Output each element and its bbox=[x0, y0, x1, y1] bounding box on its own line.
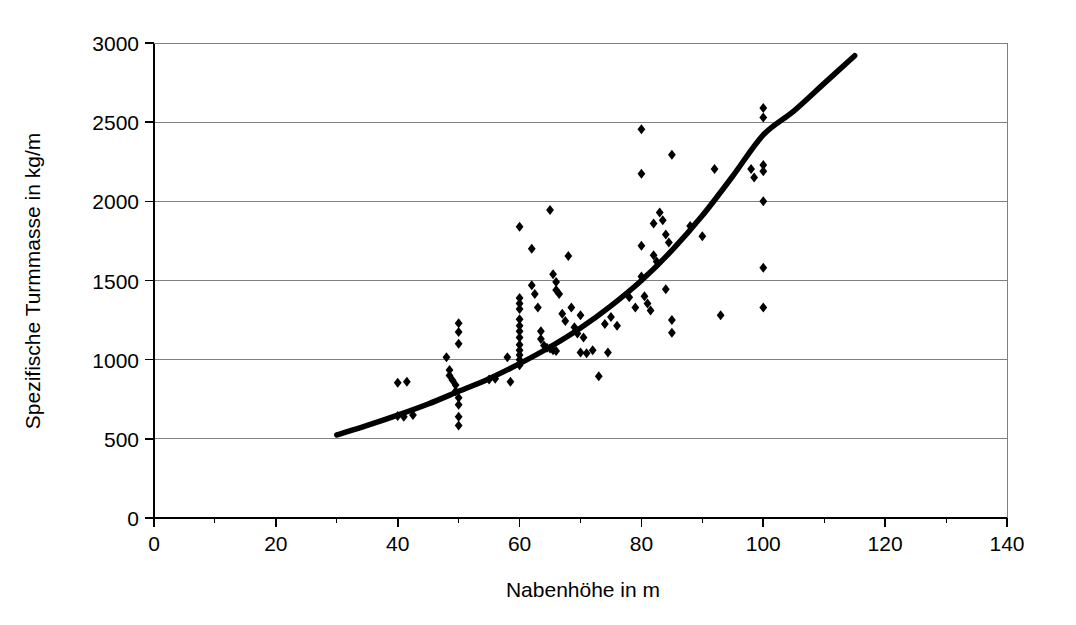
chart-container: 020406080100120140 050010001500200025003… bbox=[0, 0, 1076, 625]
y-tick-label: 1000 bbox=[92, 349, 139, 372]
x-tick-label: 80 bbox=[630, 532, 653, 555]
y-tick-label: 500 bbox=[104, 428, 139, 451]
y-tick-label: 0 bbox=[127, 507, 139, 530]
y-tick-label: 1500 bbox=[92, 270, 139, 293]
y-tick-label: 2500 bbox=[92, 111, 139, 134]
x-tick-label: 40 bbox=[386, 532, 409, 555]
scatter-plot: 020406080100120140 050010001500200025003… bbox=[0, 0, 1076, 625]
y-tick-label: 3000 bbox=[92, 32, 139, 55]
x-tick-label: 20 bbox=[264, 532, 287, 555]
x-axis-label: Nabenhöhe in m bbox=[506, 578, 660, 601]
x-tick-label: 0 bbox=[148, 532, 160, 555]
chart-background bbox=[0, 0, 1076, 625]
x-tick-label: 140 bbox=[989, 532, 1024, 555]
y-tick-label: 2000 bbox=[92, 190, 139, 213]
y-axis-label: Spezifische Turmmasse in kg/m bbox=[21, 133, 44, 429]
x-tick-label: 120 bbox=[868, 532, 903, 555]
x-tick-label: 100 bbox=[746, 532, 781, 555]
x-tick-label: 60 bbox=[508, 532, 531, 555]
